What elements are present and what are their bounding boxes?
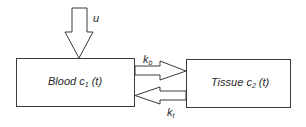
blood-compartment-label: Blood c1 (t) [48,76,102,88]
tissue-compartment-label: Tissue c2 (t) [211,77,269,89]
tissue-name: Tissue [211,76,243,88]
tissue-to-blood-arrow [135,87,186,104]
tissue-var-sub: 2 [252,82,256,89]
blood-arg: (t) [92,75,102,87]
rate-kt-label: kt [167,107,174,119]
diagram-shapes [0,0,306,127]
input-arrow [65,8,93,58]
rate-kb-label: kb [143,54,152,66]
tissue-arg: (t) [259,76,269,88]
rate-kb-sub: b [149,59,153,66]
blood-name: Blood [48,75,76,87]
input-label: u [93,13,99,24]
compartment-diagram: u Blood c1 (t) Tissue c2 (t) kb kt [0,0,306,127]
rate-kt-sub: t [173,112,175,119]
blood-var-sub: 1 [85,81,89,88]
